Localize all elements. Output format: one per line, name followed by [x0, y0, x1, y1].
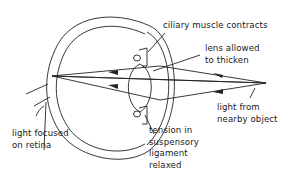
label-light-focused: light focused on retina	[12, 128, 69, 151]
lens	[128, 64, 151, 112]
optic-nerve	[26, 84, 48, 94]
label-light-from-object: light from nearby object	[217, 102, 278, 125]
label-lens: lens allowed to thicken	[205, 43, 260, 66]
eye-accommodation-diagram: ciliary muscle contracts lens allowed to…	[0, 0, 290, 182]
arrowhead	[108, 84, 118, 89]
ciliary-muscle-bottom	[134, 111, 141, 117]
ray-lower	[52, 76, 266, 83]
arrowhead	[213, 73, 223, 78]
ciliary-muscle-top	[134, 55, 141, 61]
retina-inner	[56, 26, 145, 151]
label-ciliary-muscle: ciliary muscle contracts	[163, 20, 268, 32]
label-suspensory-ligament: tension in suspensory ligament relaxed	[149, 125, 199, 171]
